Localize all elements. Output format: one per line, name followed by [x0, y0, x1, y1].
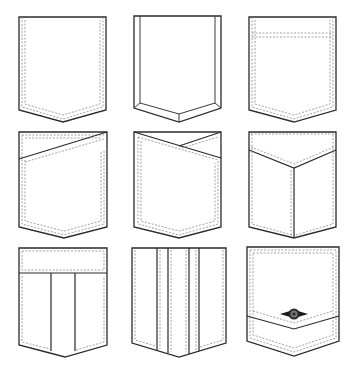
pocket-4-diagonal-flap — [19, 132, 107, 238]
pocket-9-chevron-button — [247, 247, 339, 356]
pocket-6-v-flap — [249, 132, 336, 238]
pocket-5-crossover-flap — [134, 132, 221, 238]
pocket-3-top-band — [249, 17, 336, 122]
pocket-2-beveled — [134, 16, 221, 122]
pocket-7-band-box-pleat — [19, 248, 107, 357]
pocket-illustration-grid — [0, 0, 355, 374]
pocket-1-plain — [19, 17, 106, 122]
pocket-8-multi-pleat — [132, 248, 226, 357]
